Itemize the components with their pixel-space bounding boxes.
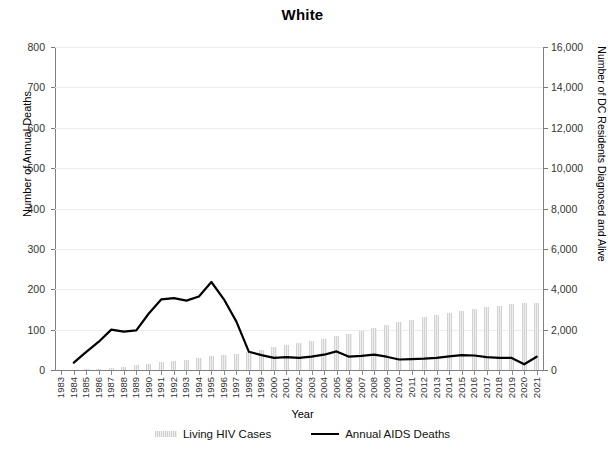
- x-axis-tick-label: 2018: [494, 377, 504, 398]
- y-axis-left-tick-label: 0: [39, 364, 45, 376]
- x-axis-tick: [111, 371, 112, 375]
- x-axis-tick: [374, 371, 375, 375]
- y-axis-right-tick: [544, 249, 548, 250]
- x-axis-tick: [524, 371, 525, 375]
- line-series-annual-aids-deaths: [55, 47, 543, 370]
- x-axis-tick: [349, 371, 350, 375]
- y-axis-right-tick: [544, 168, 548, 169]
- x-axis-tick-label: 2020: [519, 377, 529, 398]
- y-axis-left-tick-label: 200: [27, 283, 45, 295]
- x-axis-tick-label: 2001: [281, 377, 291, 398]
- y-axis-right-tick: [544, 209, 548, 210]
- x-axis-tick-label: 1991: [156, 377, 166, 398]
- x-axis-tick: [261, 371, 262, 375]
- x-axis-tick: [462, 371, 463, 375]
- y-axis-left-tick: [51, 47, 55, 48]
- y-axis-left-tick: [51, 87, 55, 88]
- x-axis-tick: [174, 371, 175, 375]
- x-axis-tick-label: 2021: [532, 377, 542, 398]
- x-axis-tick-label: 2017: [482, 377, 492, 398]
- x-axis-tick: [99, 371, 100, 375]
- y-axis-right-tick-label: 10,000: [551, 162, 583, 174]
- x-axis-tick: [224, 371, 225, 375]
- x-axis-tick: [474, 371, 475, 375]
- y-axis-left-tick-label: 100: [27, 324, 45, 336]
- x-axis-tick: [324, 371, 325, 375]
- y-axis-left-tick: [51, 289, 55, 290]
- x-axis-tick: [149, 371, 150, 375]
- x-axis-tick-label: 1984: [69, 377, 79, 398]
- x-axis-tick: [512, 371, 513, 375]
- legend-label-living-hiv-cases: Living HIV Cases: [183, 428, 271, 440]
- y-axis-right-tick: [544, 330, 548, 331]
- x-axis-tick: [399, 371, 400, 375]
- x-axis-tick-label: 1988: [119, 377, 129, 398]
- x-axis-tick: [286, 371, 287, 375]
- y-axis-right-tick-label: 6,000: [551, 243, 577, 255]
- x-axis-tick-label: 1999: [256, 377, 266, 398]
- chart-title: White: [0, 6, 605, 23]
- x-axis-tick-label: 2013: [432, 377, 442, 398]
- x-axis-tick: [211, 371, 212, 375]
- x-axis-tick-label: 1996: [219, 377, 229, 398]
- y-axis-left-tick: [51, 128, 55, 129]
- y-axis-right-tick: [544, 87, 548, 88]
- x-axis-tick-label: 2004: [319, 377, 329, 398]
- x-axis-tick: [74, 371, 75, 375]
- chart-legend: Living HIV Cases Annual AIDS Deaths: [0, 428, 605, 440]
- y-axis-right-tick-label: 0: [551, 364, 557, 376]
- x-axis-tick: [424, 371, 425, 375]
- x-axis-title: Year: [0, 408, 605, 420]
- x-axis-tick: [299, 371, 300, 375]
- x-axis-tick: [437, 371, 438, 375]
- x-axis-tick: [61, 371, 62, 375]
- x-axis-tick: [249, 371, 250, 375]
- x-axis-tick: [487, 371, 488, 375]
- x-axis-tick-label: 2015: [457, 377, 467, 398]
- x-axis-tick: [499, 371, 500, 375]
- y-axis-right-tick-label: 2,000: [551, 324, 577, 336]
- y-axis-right-tick: [544, 370, 548, 371]
- y-axis-right-title: Number of DC Residents Diagnosed and Ali…: [596, 4, 608, 304]
- y-axis-right-tick: [544, 47, 548, 48]
- x-axis-tick: [136, 371, 137, 375]
- x-axis-tick-label: 2003: [307, 377, 317, 398]
- bar-swatch-icon: [155, 431, 177, 437]
- x-axis-tick-label: 2014: [444, 377, 454, 398]
- y-axis-left-tick: [51, 168, 55, 169]
- x-axis-tick: [161, 371, 162, 375]
- y-axis-right-tick: [544, 289, 548, 290]
- x-axis-tick: [236, 371, 237, 375]
- x-axis-tick-label: 1997: [231, 377, 241, 398]
- y-axis-right-tick-label: 16,000: [551, 41, 583, 53]
- x-axis-tick: [362, 371, 363, 375]
- x-axis-tick-label: 2007: [357, 377, 367, 398]
- x-axis-tick: [537, 371, 538, 375]
- legend-label-annual-aids-deaths: Annual AIDS Deaths: [345, 428, 450, 440]
- y-axis-right-tick-label: 14,000: [551, 81, 583, 93]
- y-axis-left-tick: [51, 209, 55, 210]
- x-axis-tick: [337, 371, 338, 375]
- x-axis-tick-label: 1990: [144, 377, 154, 398]
- x-axis-tick-label: 1993: [181, 377, 191, 398]
- x-axis-tick: [199, 371, 200, 375]
- x-axis-tick: [312, 371, 313, 375]
- x-axis-tick: [86, 371, 87, 375]
- x-axis-tick: [412, 371, 413, 375]
- x-axis-tick: [186, 371, 187, 375]
- annual-aids-deaths-polyline: [74, 282, 537, 364]
- y-axis-right-tick: [544, 128, 548, 129]
- x-axis-tick-label: 1998: [244, 377, 254, 398]
- x-axis-tick-label: 2010: [394, 377, 404, 398]
- x-axis-tick-label: 1995: [206, 377, 216, 398]
- x-axis-tick: [387, 371, 388, 375]
- y-axis-left-tick: [51, 370, 55, 371]
- x-axis-tick-label: 2016: [469, 377, 479, 398]
- legend-item-annual-aids-deaths: Annual AIDS Deaths: [311, 428, 450, 440]
- x-axis-tick-label: 2005: [332, 377, 342, 398]
- y-axis-left-title: Number of Annual Deaths: [21, 39, 33, 269]
- y-axis-right-tick-label: 12,000: [551, 122, 583, 134]
- x-axis-tick-label: 1985: [81, 377, 91, 398]
- x-axis-tick: [449, 371, 450, 375]
